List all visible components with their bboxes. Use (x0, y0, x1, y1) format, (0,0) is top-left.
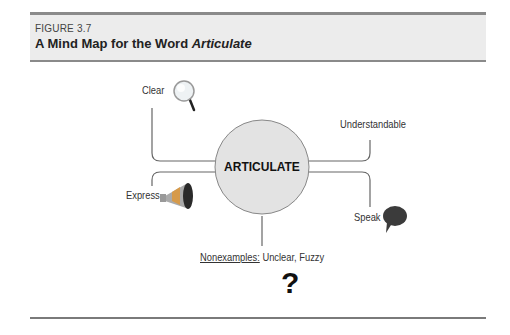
bottom-divider (30, 317, 486, 319)
magnifying-glass-icon (174, 81, 194, 110)
branch-label-speak: Speak (354, 211, 381, 223)
speech-bubble-icon (383, 206, 407, 233)
connector-understandable (308, 140, 370, 161)
megaphone-icon (160, 183, 193, 209)
branch-label-express: Express (126, 189, 160, 201)
connector-speak (308, 172, 370, 207)
connector-express (152, 172, 216, 186)
question-mark-icon: ? (281, 266, 299, 300)
center-concept: ARTICULATE (212, 160, 312, 174)
nonexamples-heading: Nonexamples: (200, 251, 260, 263)
nonexamples-text: Nonexamples: Unclear, Fuzzy (200, 251, 324, 263)
connector-clear (152, 108, 216, 161)
branch-label-understandable: Understandable (340, 118, 406, 130)
branch-label-clear: Clear (142, 84, 164, 96)
